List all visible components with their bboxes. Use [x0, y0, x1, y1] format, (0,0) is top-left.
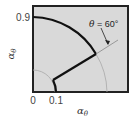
y-tick-0.9: 0.9	[16, 12, 30, 23]
x-tick-0: 0	[30, 95, 36, 106]
theta-annotation: θ = 60°	[89, 19, 119, 29]
polar-diagram: θ = 60° 0.9 0 0.1 αθ αθ	[0, 0, 135, 117]
x-axis-label: αθ	[77, 105, 89, 117]
y-axis-label: αθ	[5, 48, 18, 60]
x-tick-0.1: 0.1	[49, 95, 63, 106]
